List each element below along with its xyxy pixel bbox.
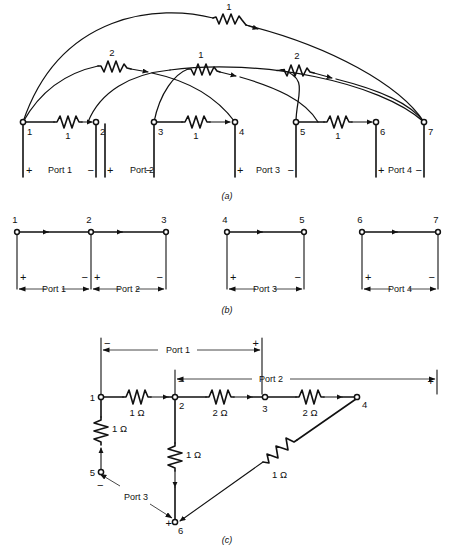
node-label-a-4: 4 — [239, 126, 244, 137]
panel-b-group-3: 6 7 + − Port 4 — [357, 214, 440, 294]
port-3-plus-sign-c: + — [166, 517, 172, 529]
node-label-c-4: 4 — [362, 399, 367, 410]
panel-b-group-1: 1 2 3 + − Port 1 + − Port 2 — [12, 214, 168, 294]
node-a-4 — [232, 119, 237, 124]
node-label-b-3: 3 — [161, 214, 166, 225]
branch-value-c-3-4: 2 Ω — [302, 407, 317, 418]
node-a-2 — [93, 119, 98, 124]
node-label-b-5: 5 — [299, 214, 304, 225]
port-4-minus-sign-b: − — [429, 271, 435, 283]
node-label-b-1: 1 — [12, 214, 17, 225]
port-2-plus-sign-c: + — [428, 375, 434, 387]
branch-c-2-3: 2 Ω — [177, 390, 264, 418]
node-b-6 — [360, 230, 365, 235]
node-b-3 — [164, 230, 169, 235]
port-3-minus-sign-b: − — [295, 271, 301, 283]
branch-value-c-1-2: 1 Ω — [129, 407, 144, 418]
port-2-label-c: Port 2 — [259, 374, 283, 384]
port-1-label-c: Port 1 — [166, 345, 190, 355]
circuit-figure: 1 2 1 2 1 1 1 — [0, 0, 454, 551]
port-2-label-b: Port 2 — [116, 284, 140, 294]
port-1-minus-sign-a: − — [88, 164, 94, 176]
node-b-1 — [15, 230, 20, 235]
port-2-minus-sign-c: − — [178, 375, 184, 387]
node-label-a-2: 2 — [100, 126, 105, 137]
branch-value-c-2-3: 2 Ω — [212, 407, 227, 418]
port-3-dimension-c: Port 3 − + — [97, 474, 172, 529]
branch-value-c-5-1: 1 Ω — [112, 423, 127, 434]
node-label-b-7: 7 — [433, 214, 438, 225]
node-c-1 — [98, 394, 103, 399]
branch-c-1-2: 1 Ω — [103, 390, 174, 418]
port-1-plus-sign-a: + — [26, 164, 32, 176]
branch-value-1-2: 1 — [65, 130, 70, 141]
node-b-2 — [89, 230, 94, 235]
port-1-label-a: Port 1 — [48, 165, 72, 175]
panel-b: 1 2 3 + − Port 1 + − Port 2 — [12, 214, 440, 315]
port-4-minus-sign-a: − — [416, 164, 422, 176]
port-3-plus-sign-a: + — [237, 164, 243, 176]
panel-label-b: (b) — [222, 305, 233, 315]
panel-label-a: (a) — [222, 191, 233, 201]
panel-label-c: (c) — [222, 535, 233, 545]
node-c-6 — [172, 519, 177, 524]
port-3-label-a: Port 3 — [256, 165, 280, 175]
port-2-minus-sign-a: − — [146, 164, 152, 176]
arc-value-5-7: 2 — [294, 50, 299, 61]
arc-value-1-4: 2 — [109, 47, 114, 58]
node-a-6 — [373, 119, 378, 124]
branch-3-4: 1 — [156, 116, 230, 141]
node-a-1 — [20, 119, 25, 124]
port-3-minus-sign-a: − — [288, 164, 294, 176]
port-2-dimension-c: − + Port 2 — [175, 370, 437, 394]
port-2-plus-sign-b: + — [94, 271, 100, 283]
node-label-a-5: 5 — [300, 126, 305, 137]
node-c-3 — [262, 394, 267, 399]
node-label-a-3: 3 — [158, 126, 163, 137]
node-label-b-6: 6 — [357, 214, 362, 225]
branch-c-5-1: 1 Ω — [94, 399, 127, 470]
node-b-7 — [436, 230, 441, 235]
node-a-7 — [421, 119, 426, 124]
port-3-label-b: Port 3 — [253, 284, 277, 294]
panel-c: − + Port 1 − + Port 2 — [90, 337, 437, 545]
node-label-c-5: 5 — [90, 467, 95, 478]
port-1-plus-sign-c: + — [253, 337, 259, 349]
port-1-label-b: Port 1 — [42, 284, 66, 294]
branch-value-c-2-6: 1 Ω — [186, 449, 201, 460]
port-4-label-a: Port 4 — [388, 165, 412, 175]
node-b-4 — [225, 230, 230, 235]
branch-value-5-6: 1 — [335, 130, 340, 141]
node-a-3 — [151, 119, 156, 124]
branch-c-2-6: 1 Ω — [168, 399, 201, 521]
port-2-plus-sign-a: + — [107, 164, 113, 176]
node-b-5 — [302, 230, 307, 235]
port-1-minus-sign-c: − — [104, 337, 110, 349]
node-label-b-2: 2 — [86, 214, 91, 225]
port-3-plus-sign-b: + — [230, 271, 236, 283]
arc-value-3-6: 1 — [198, 49, 203, 60]
branch-5-6: 1 — [298, 116, 372, 141]
port-3-label-c: Port 3 — [124, 492, 148, 502]
node-label-a-6: 6 — [380, 126, 385, 137]
node-label-b-4: 4 — [222, 214, 227, 225]
node-label-a-1: 1 — [27, 126, 32, 137]
port-1-plus-sign-b: + — [20, 271, 26, 283]
arc-value-1-7: 1 — [226, 1, 231, 12]
node-label-c-6: 6 — [178, 525, 183, 536]
port-4-label-b: Port 4 — [388, 284, 412, 294]
port-3-minus-sign-c: − — [97, 479, 103, 491]
node-label-c-2: 2 — [179, 400, 184, 411]
node-a-5 — [293, 119, 298, 124]
branch-1-2: 1 — [25, 116, 92, 141]
node-c-5 — [98, 469, 103, 474]
arc-branch-2-7 — [88, 67, 424, 122]
panel-a: 1 2 1 2 1 1 1 — [20, 1, 433, 201]
node-c-4 — [354, 394, 359, 399]
branch-value-3-4: 1 — [193, 130, 198, 141]
port-4-plus-sign-b: + — [365, 271, 371, 283]
branch-c-4-6: 1 Ω — [180, 399, 356, 521]
port-4-plus-sign-a: + — [378, 164, 384, 176]
figure-canvas: 1 2 1 2 1 1 1 — [0, 0, 454, 551]
node-c-2 — [172, 394, 177, 399]
